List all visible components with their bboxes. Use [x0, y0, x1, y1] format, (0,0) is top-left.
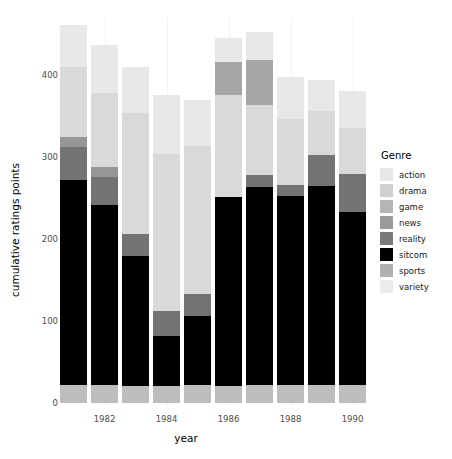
bar-segment-action [60, 25, 87, 67]
bar-segment-news [91, 167, 118, 177]
legend-item-game[interactable]: game [380, 199, 450, 214]
bar-segment-game [246, 105, 273, 176]
bar-segment-sitcom [308, 186, 335, 385]
bar-1984 [153, 95, 180, 403]
bar-segment-reality [122, 234, 149, 255]
bar-segment-variety [122, 386, 149, 403]
bar-segment-variety [184, 385, 211, 403]
y-tick-100: 100 [18, 316, 58, 326]
legend-label-game: game [399, 202, 423, 212]
bar-segment-sitcom [122, 256, 149, 386]
legend-swatch-action [380, 168, 393, 181]
bar-segment-reality [153, 311, 180, 336]
legend-label-drama: drama [399, 186, 427, 196]
bar-1990 [339, 91, 366, 403]
bar-segment-news [60, 137, 87, 148]
bar-segment-action [153, 95, 180, 154]
bar-1986 [215, 38, 242, 403]
legend-swatch-sports [380, 264, 393, 277]
legend-label-news: news [399, 218, 421, 228]
legend-item-variety[interactable]: variety [380, 279, 450, 294]
legend-label-action: action [399, 170, 425, 180]
legend-label-variety: variety [399, 282, 429, 292]
y-axis-tick-labels: 0100200300400 [14, 0, 58, 459]
bar-1983 [122, 67, 149, 403]
x-axis-title-text: year [174, 432, 197, 444]
x-tick-1986: 1986 [209, 414, 249, 424]
legend-item-sports[interactable]: sports [380, 263, 450, 278]
bar-segment-variety [91, 385, 118, 403]
bar-segment-sitcom [246, 187, 273, 385]
bar-segment-sitcom [60, 180, 87, 385]
legend-swatch-sitcom [380, 248, 393, 261]
legend-title: Genre [381, 150, 450, 161]
stacked-bar-chart: cumulative ratings points 0100200300400 … [0, 0, 452, 459]
bar-segment-game [215, 95, 242, 197]
legend-swatch-variety [380, 280, 393, 293]
bar-segment-game [277, 119, 304, 185]
legend-item-news[interactable]: news [380, 215, 450, 230]
x-tick-1990: 1990 [333, 414, 373, 424]
bar-segment-drama [246, 60, 273, 105]
bar-segment-action [215, 38, 242, 63]
bar-segment-sitcom [91, 205, 118, 385]
bar-segment-sitcom [215, 197, 242, 386]
bar-segment-sitcom [153, 336, 180, 386]
legend-label-reality: reality [399, 234, 426, 244]
x-tick-1988: 1988 [271, 414, 311, 424]
bar-segment-variety [339, 385, 366, 403]
plot-panel [58, 18, 368, 407]
bar-segment-action [91, 45, 118, 93]
bar-segment-sitcom [277, 196, 304, 385]
legend-items: actiondramagamenewsrealitysitcomsportsva… [380, 167, 450, 294]
bar-segment-action [246, 32, 273, 60]
bar-segment-game [60, 67, 87, 137]
y-tick-0: 0 [18, 398, 58, 408]
bar-segment-game [339, 128, 366, 175]
bar-1982 [91, 45, 118, 403]
bar-segment-reality [60, 147, 87, 180]
bar-segment-variety [308, 385, 335, 403]
x-tick-1984: 1984 [147, 414, 187, 424]
legend-swatch-game [380, 200, 393, 213]
bar-segment-variety [153, 386, 180, 403]
bar-1985 [184, 100, 211, 403]
bar-1988 [277, 77, 304, 403]
bar-segment-variety [215, 386, 242, 403]
bar-segment-game [122, 113, 149, 234]
bar-segment-action [184, 100, 211, 146]
bar-segment-drama [215, 62, 242, 95]
bar-segment-variety [277, 385, 304, 403]
bar-segment-game [308, 111, 335, 154]
bar-segment-sitcom [339, 212, 366, 385]
bar-segment-action [339, 91, 366, 128]
bar-segment-reality [246, 175, 273, 187]
y-tick-200: 200 [18, 234, 58, 244]
bar-segment-variety [60, 385, 87, 403]
y-tick-400: 400 [18, 70, 58, 80]
legend-item-drama[interactable]: drama [380, 183, 450, 198]
bar-segment-action [277, 77, 304, 119]
bar-segment-reality [339, 174, 366, 212]
bar-1987 [246, 32, 273, 403]
bar-segment-variety [246, 385, 273, 403]
bar-segment-reality [184, 294, 211, 316]
bar-segment-action [308, 80, 335, 111]
legend-item-sitcom[interactable]: sitcom [380, 247, 450, 262]
bar-segment-action [122, 67, 149, 113]
legend-item-reality[interactable]: reality [380, 231, 450, 246]
x-axis-title: year [0, 432, 372, 444]
bar-segment-sitcom [184, 316, 211, 385]
bar-segment-game [153, 154, 180, 311]
bar-1981 [60, 25, 87, 403]
bar-segment-reality [308, 155, 335, 186]
x-tick-1982: 1982 [85, 414, 125, 424]
bar-segment-reality [91, 177, 118, 205]
legend: Genre actiondramagamenewsrealitysitcomsp… [380, 150, 450, 295]
legend-swatch-news [380, 216, 393, 229]
bar-segment-game [91, 93, 118, 167]
legend-swatch-drama [380, 184, 393, 197]
bar-segment-reality [277, 185, 304, 196]
bar-1989 [308, 80, 335, 403]
legend-item-action[interactable]: action [380, 167, 450, 182]
